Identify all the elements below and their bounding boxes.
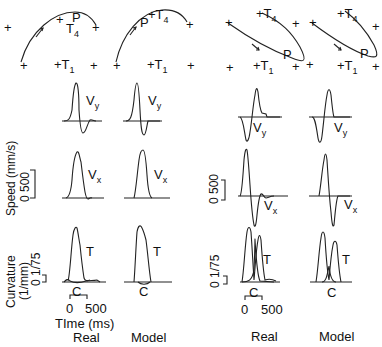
curvature-scale-bar-right xyxy=(223,276,227,284)
column-label-model: Model xyxy=(319,330,354,343)
tangential-velocity-label: T xyxy=(342,253,350,266)
curvature-scale-label: 0 1/75 xyxy=(30,253,43,286)
vy-label: Vy xyxy=(334,121,347,134)
vx-label: Vx xyxy=(154,168,167,181)
target-plus: + xyxy=(92,21,100,34)
target-t1-label: +T1 xyxy=(54,58,75,71)
curvature-label: C xyxy=(139,285,148,298)
target-plus: + xyxy=(225,16,233,29)
target-plus: + xyxy=(306,58,314,71)
vy-label: Vy xyxy=(253,121,266,134)
target-t4-label: +T4 xyxy=(256,7,277,20)
speed-scale-bar-right xyxy=(221,180,225,200)
vx-label: Vx xyxy=(344,198,357,211)
target-plus: + xyxy=(4,21,12,34)
target-plus: + xyxy=(113,59,121,72)
tangential-trace-left-model xyxy=(134,226,151,282)
target-plus: + xyxy=(372,60,380,73)
speed-scale-label: 0 500 xyxy=(19,172,32,202)
right-curvature-scale-label: 0 1/75 xyxy=(209,255,222,288)
vy-label: Vy xyxy=(148,94,161,107)
target-plus: + xyxy=(186,18,194,31)
vx-trace-left-model xyxy=(134,150,152,198)
curvature-label: C xyxy=(72,285,81,298)
right-speed-scale-label: 0 500 xyxy=(208,174,221,204)
target-t1-label: +T1 xyxy=(337,59,358,72)
time-scale-500: 500 xyxy=(85,302,107,315)
time-scale-zero: 0 xyxy=(241,303,248,316)
curvature-axis-label: Curvature xyxy=(5,255,18,308)
vx-trace-right-model xyxy=(319,154,350,226)
target-plus: + xyxy=(309,16,317,29)
target-plus: + xyxy=(292,60,300,73)
target-plus: + xyxy=(20,59,28,72)
column-label-real: Real xyxy=(251,330,278,343)
column-label-real: Real xyxy=(73,331,100,344)
tangential-trace-right-model xyxy=(316,232,341,282)
target-t1-label: +T1 xyxy=(147,58,168,71)
target-plus: + xyxy=(372,20,380,33)
vx-label: Vx xyxy=(264,199,277,212)
vx-label: Vx xyxy=(88,168,101,181)
tangential-velocity-label: T xyxy=(153,245,161,258)
curvature-label: C xyxy=(249,286,258,299)
target-t4-label: +T4 xyxy=(148,8,169,21)
time-scale-zero: 0 xyxy=(66,302,73,315)
time-scale-500: 500 xyxy=(261,303,283,316)
target-plus: + xyxy=(292,17,300,30)
vy-label: Vy xyxy=(86,94,99,107)
target-plus: + xyxy=(226,61,234,74)
figure-canvas xyxy=(0,0,382,347)
target-plus: + xyxy=(90,59,98,72)
point-p-label: P xyxy=(360,47,369,60)
target-plus: + xyxy=(187,59,195,72)
point-p-label: P xyxy=(283,48,292,61)
time-axis-label: TIme (ms) xyxy=(55,317,114,330)
vx-trace-right-real xyxy=(240,149,274,226)
target-t1-label: +T1 xyxy=(253,59,274,72)
speed-axis-label: Speed (mm/s) xyxy=(5,141,18,216)
target-t4-label: +T4 xyxy=(337,7,358,20)
tangential-velocity-label: T xyxy=(263,253,271,266)
point-p-label: P xyxy=(72,11,81,24)
column-label-model: Model xyxy=(131,331,166,344)
tangential-velocity-label: T xyxy=(86,245,94,258)
vy-trace-left-model xyxy=(126,83,160,135)
curvature-label: C xyxy=(327,286,336,299)
target-plus: + xyxy=(56,13,64,26)
